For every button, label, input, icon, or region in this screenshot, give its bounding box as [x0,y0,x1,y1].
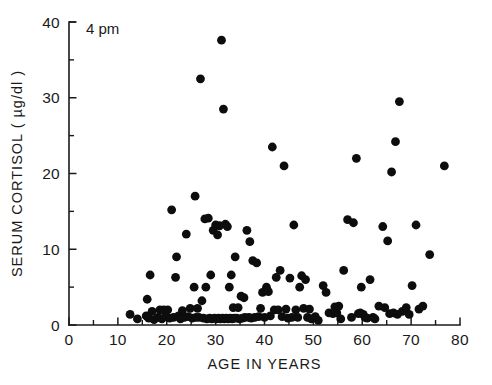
data-point [314,316,323,325]
data-point [408,281,417,290]
data-point [378,222,387,231]
data-point [405,310,414,319]
data-point [231,252,240,261]
data-point [193,304,202,313]
x-tick-label: 30 [207,331,225,348]
y-tick-label: 20 [42,165,60,182]
x-tick-label: 60 [353,331,371,348]
data-point [146,271,155,280]
data-point [425,250,434,259]
data-point [357,283,366,292]
x-tick-label: 0 [65,331,74,348]
x-tick-label: 70 [402,331,420,348]
data-point [223,222,232,231]
data-point [418,302,427,311]
axes-group [69,22,460,325]
data-point [334,302,343,311]
data-point [301,275,310,284]
data-point [206,271,215,280]
time-annotation: 4 pm [86,20,119,37]
tick-labels-group: 01020304050607080010203040 [42,14,469,349]
data-point [204,214,213,223]
y-tick-label: 30 [42,89,60,106]
data-point [126,310,135,319]
y-tick-label: 40 [42,14,60,31]
data-point [133,315,142,324]
plot-canvas: 01020304050607080010203040 AGE IN YEARSS… [0,0,492,385]
data-point [395,97,404,106]
data-point [440,162,449,171]
data-point [191,192,200,201]
y-tick-label: 10 [42,241,60,258]
data-point [190,283,199,292]
data-point [171,273,180,282]
data-point [291,305,300,314]
data-point [383,237,392,246]
data-point [182,230,191,239]
data-point [234,303,243,312]
data-point [276,266,285,275]
data-point [387,168,396,177]
annotation-group: 4 pm [86,20,119,37]
x-tick-label: 80 [451,331,469,348]
data-point [167,205,176,214]
data-point [264,287,273,296]
x-tick-label: 20 [158,331,176,348]
data-point [366,275,375,284]
data-point [339,266,348,275]
data-point [280,162,289,171]
data-point [289,221,298,230]
data-point [295,283,304,292]
data-point [163,305,172,314]
data-point [219,105,228,114]
data-point [227,271,236,280]
x-tick-label: 10 [109,331,127,348]
data-point [268,143,277,152]
data-point [371,315,380,324]
scatter-plot-figure: 01020304050607080010203040 AGE IN YEARSS… [0,0,492,385]
data-point [196,74,205,83]
data-point [217,36,226,45]
data-point [322,288,331,297]
data-point [245,237,254,246]
data-point [240,293,249,302]
x-tick-label: 50 [304,331,322,348]
y-tick-label: 0 [51,317,60,334]
data-point [143,295,152,304]
x-axis-title: AGE IN YEARS [207,356,321,372]
data-point [213,230,222,239]
data-point [256,304,265,313]
data-point [336,315,345,324]
data-point [282,305,291,314]
data-point [305,305,314,314]
data-point [349,218,358,227]
data-point [243,226,252,235]
ticks-group [69,22,460,325]
data-point [201,283,210,292]
data-points-group [126,36,449,325]
data-point [352,154,361,163]
data-point [286,274,295,283]
data-point [293,313,302,322]
data-point [412,221,421,230]
x-tick-label: 40 [256,331,274,348]
data-point [225,283,234,292]
data-point [391,137,400,146]
data-point [172,252,181,261]
data-point [198,296,207,305]
data-point [252,258,261,267]
y-axis-title: SERUM CORTISOL ( µg/dl ) [9,70,25,277]
